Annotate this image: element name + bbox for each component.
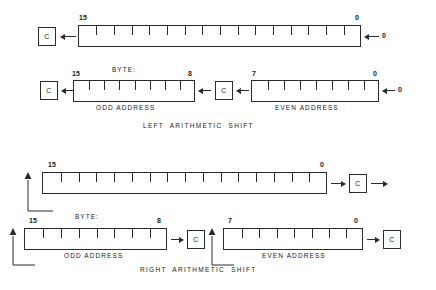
right-shift-odd-byte-msb-label: 15 — [29, 217, 37, 225]
right-shift-byte-label: BYTE: — [75, 213, 99, 221]
right-shift-word-msb-label: 15 — [48, 161, 56, 169]
left-shift-even-byte-register — [251, 80, 379, 102]
right-shift-even-byte-lsb-label: 0 — [354, 217, 358, 225]
carry-label: C — [221, 87, 226, 94]
carry-label: C — [44, 33, 49, 40]
diagram-canvas: C 15 0 0 BYTE: C 15 8 ODD AD — [0, 0, 436, 290]
left-shift-word-fill-label: 0 — [382, 32, 386, 40]
right-shift-odd-byte-carry-box: C — [187, 230, 205, 249]
left-shift-even-byte-msb-label: 7 — [252, 70, 256, 78]
left-shift-even-byte-fill-arrow — [383, 90, 395, 91]
carry-label: C — [46, 87, 51, 94]
left-shift-caption: LEFT ARITHMETIC SHIFT — [143, 122, 254, 130]
left-shift-odd-byte-carry-box: C — [40, 81, 58, 100]
carry-label: C — [355, 180, 360, 187]
left-shift-word-register — [78, 25, 361, 47]
right-shift-odd-byte-lsb-label: 8 — [157, 217, 161, 225]
left-shift-odd-byte-address-label: ODD ADDRESS — [96, 104, 155, 112]
left-shift-even-byte-carry-arrow — [237, 90, 249, 91]
right-shift-even-byte-carry-box: C — [383, 230, 401, 249]
carry-label: C — [193, 236, 198, 243]
left-shift-even-byte-carry-box: C — [215, 81, 233, 100]
right-shift-word-carry-box: C — [349, 174, 367, 193]
left-shift-word-carry-arrow — [61, 36, 76, 37]
right-shift-caption: RIGHT ARITHMETIC SHIFT — [140, 266, 256, 274]
left-shift-odd-byte-msb-label: 15 — [72, 70, 80, 78]
left-shift-word-carry-box: C — [38, 27, 56, 46]
left-shift-byte-label: BYTE: — [112, 66, 136, 74]
right-shift-odd-byte-address-label: ODD ADDRESS — [64, 252, 123, 260]
right-shift-word-out-arrow — [371, 183, 387, 184]
right-shift-even-byte-register — [223, 228, 363, 250]
right-shift-word-carry-arrow — [331, 183, 345, 184]
right-shift-even-byte-msb-label: 7 — [228, 217, 232, 225]
left-shift-word-lsb-label: 0 — [355, 14, 359, 22]
right-shift-even-byte-address-label: EVEN ADDRESS — [262, 252, 326, 260]
left-shift-interbyte-arrow-right — [199, 90, 211, 91]
right-shift-odd-byte-carry-arrow — [171, 239, 183, 240]
right-shift-word-register — [42, 172, 327, 194]
right-shift-word-lsb-label: 0 — [320, 161, 324, 169]
left-shift-even-byte-lsb-label: 0 — [373, 70, 377, 78]
left-shift-word-fill-arrow — [365, 36, 379, 37]
left-shift-word-msb-label: 15 — [79, 14, 87, 22]
carry-label: C — [389, 236, 394, 243]
right-shift-even-byte-carry-arrow — [367, 239, 379, 240]
left-shift-odd-byte-lsb-label: 8 — [188, 70, 192, 78]
left-shift-even-byte-address-label: EVEN ADDRESS — [275, 104, 339, 112]
right-shift-odd-byte-register — [24, 228, 167, 250]
left-shift-even-byte-fill-label: 0 — [398, 86, 402, 94]
left-shift-odd-byte-register — [73, 80, 195, 102]
